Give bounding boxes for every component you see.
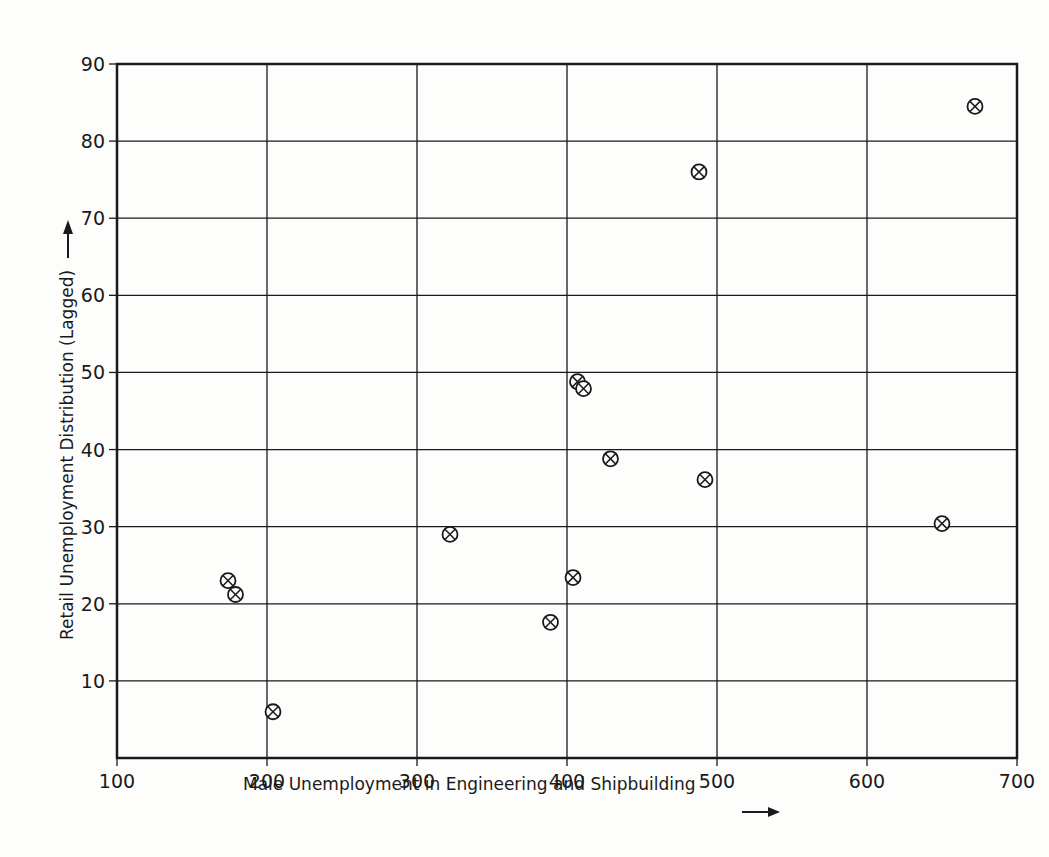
circled-x-marker-icon — [228, 587, 243, 602]
circled-x-marker-icon — [266, 704, 281, 719]
y-tick-label: 40 — [81, 439, 105, 461]
circled-x-marker-icon — [968, 99, 983, 114]
y-axis-label: Retail Unemployment Distribution (Lagged… — [57, 270, 77, 640]
y-tick-label: 60 — [81, 284, 105, 306]
y-tick-label: 80 — [81, 130, 105, 152]
x-tick-label: 500 — [699, 770, 735, 792]
gridlines — [109, 64, 1017, 766]
x-tick-label: 100 — [99, 770, 135, 792]
y-axis-title: Retail Unemployment Distribution (Lagged… — [57, 220, 77, 640]
x-tick-label: 600 — [849, 770, 885, 792]
x-axis-arrow-icon — [742, 807, 780, 817]
y-tick-label: 50 — [81, 361, 105, 383]
y-tick-label: 70 — [81, 207, 105, 229]
circled-x-marker-icon — [221, 573, 236, 588]
data-points — [221, 99, 983, 719]
circled-x-marker-icon — [443, 527, 458, 542]
circled-x-marker-icon — [698, 472, 713, 487]
circled-x-marker-icon — [692, 164, 707, 179]
circled-x-marker-icon — [603, 451, 618, 466]
y-tick-label: 10 — [81, 670, 105, 692]
circled-x-marker-icon — [566, 570, 581, 585]
x-tick-label: 700 — [999, 770, 1035, 792]
y-tick-label: 30 — [81, 516, 105, 538]
x-axis-label: Male Unemployment in Engineering and Shi… — [243, 774, 696, 794]
circled-x-marker-icon — [576, 381, 591, 396]
circled-x-marker-icon — [543, 615, 558, 630]
circled-x-marker-icon — [935, 516, 950, 531]
scatter-chart: 100200300400500600700102030405060708090 … — [0, 0, 1049, 857]
y-tick-label: 90 — [81, 53, 105, 75]
y-tick-label: 20 — [81, 593, 105, 615]
y-axis-arrow-icon — [63, 220, 73, 258]
